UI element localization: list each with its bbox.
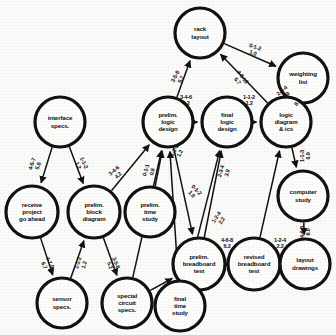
- node-label: sensorspecs.: [52, 295, 72, 309]
- edge-label-sensor-to-prelimblock: 1-1-21.2: [73, 256, 88, 271]
- edge-label-computer-to-layout: 4-6-86.0: [299, 226, 311, 238]
- edge-label-logicdiag-to-rack: 4-8-126.7: [231, 69, 250, 89]
- node-finaltime[interactable]: finaltimestudy: [155, 281, 205, 331]
- edge-expected-time: 6.2: [223, 243, 230, 249]
- edge-expected-time: 1.2: [245, 100, 252, 106]
- edge-logicdiag-to-computer: [292, 148, 296, 167]
- edge-label-logicdiag-to-computer: 1-1-30.9: [299, 150, 311, 162]
- edge-estimate: 1-1-2: [243, 94, 255, 100]
- node-layout[interactable]: layoutdrawings: [280, 239, 330, 289]
- node-rack[interactable]: racklayout: [175, 8, 225, 58]
- edge-estimate: 1-2-4: [274, 237, 287, 243]
- edge-label-interface-to-prelimblock: 1-1-21.2: [73, 156, 89, 172]
- node-special[interactable]: specialcircuitspecs.: [102, 278, 152, 328]
- edge-expected-time: 5.8: [34, 162, 42, 171]
- node-receive[interactable]: receiveprojectgo ahead: [6, 186, 58, 238]
- edge-label-prelimlogic-to-prelimbb: 0-1-21.0: [185, 183, 202, 200]
- edge-estimate: 1-1-3: [299, 150, 305, 162]
- edge-estimate: 4-6-8: [221, 237, 233, 243]
- node-prelimtime[interactable]: prelim.timestudy: [125, 187, 175, 237]
- edge-label-interface-to-receive: 4-5-75.8: [27, 157, 43, 173]
- edge-label-finaltime-to-finallogic: 2-3-43.9: [216, 163, 231, 179]
- edge-interface-to-receive: [41, 147, 52, 183]
- edge-expected-time: 0.9: [305, 152, 311, 159]
- pert-diagram-canvas: racklayoutweightinglistinterfacespecs.pr…: [0, 0, 336, 335]
- edge-expected-time: 1.2: [80, 260, 88, 269]
- edge-expected-time: 6.0: [305, 228, 311, 235]
- node-revisedbb[interactable]: revisedbreadboardtest: [228, 238, 280, 290]
- node-interface[interactable]: interfacespecs.: [35, 97, 85, 147]
- edge-estimate: 3-4-6: [180, 94, 192, 100]
- edge-expected-time: 4.2: [182, 100, 189, 106]
- node-sensor[interactable]: sensorspecs.: [37, 278, 87, 328]
- edge-label-receive-to-sensor: 4-7-96.7: [39, 256, 56, 272]
- edge-expected-time: 3.9: [223, 168, 231, 177]
- edge-label-prelimblock-to-special: 3-5-85.2: [105, 256, 121, 272]
- network-diagram: racklayoutweightinglistinterfacespecs.pr…: [0, 0, 336, 335]
- edge-prelimtime-to-prelimlogic: [155, 151, 162, 186]
- edge-expected-time: 1.0: [249, 49, 258, 57]
- edge-estimate: 4-6-8: [299, 226, 305, 238]
- edge-label-prelimlogic-to-finallogic: 3-4-64.2: [180, 94, 192, 106]
- node-label: specialcircuitspecs.: [117, 291, 137, 312]
- edge-label-prelimbb-to-finallogic: 1-2-42.2: [210, 210, 228, 228]
- node-label: interfacespecs.: [48, 114, 73, 128]
- edge-expected-time: 5.2: [106, 261, 114, 270]
- node-computer[interactable]: computerstudy: [278, 171, 328, 221]
- node-label: receiveprojectgo ahead: [19, 200, 45, 221]
- nodes-layer: racklayoutweightinglistinterfacespecs.pr…: [6, 8, 330, 331]
- edge-label-rack-to-weighting: 0-1-21.0: [246, 42, 262, 58]
- node-prelimblock[interactable]: prelim.blockdiagram: [68, 186, 120, 238]
- edge-labels-layer: 3-5-85.74-8-126.70-1-21.02-3-43.98.01-1-…: [27, 42, 311, 272]
- node-logicdiag[interactable]: logicdiagram& ics: [261, 97, 311, 147]
- edge-label-prelimbb-to-revisedbb: 4-6-86.2: [221, 237, 233, 249]
- edge-expected-time: 2.2: [276, 243, 283, 249]
- edge-label-prelimlogic-to-rack: 3-5-85.7: [170, 70, 187, 87]
- edge-label-prelimtime-to-prelimlogic: 0-1-10.8: [141, 163, 156, 178]
- edge-label-finallogic-to-logicdiag: 1-1-21.2: [243, 94, 255, 106]
- edge-expected-time: 0.8: [148, 167, 156, 176]
